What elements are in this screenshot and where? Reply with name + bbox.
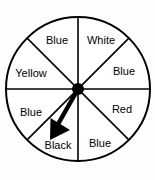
sector-label-blue-left-lower: Blue — [20, 106, 42, 118]
sector-label-blue-bottom-right: Blue — [89, 137, 111, 149]
sector-label-black: Black — [45, 139, 72, 151]
spinner-hub — [72, 83, 84, 95]
sector-label-yellow: Yellow — [15, 67, 46, 79]
sector-label-blue-right-upper: Blue — [113, 65, 135, 77]
sector-label-white: White — [87, 34, 115, 46]
sector-label-blue-top-left: Blue — [46, 34, 68, 46]
sector-label-red: Red — [112, 103, 132, 115]
spinner-wheel-graphic: White Blue Red Blue Black Blue Yellow Bl… — [0, 0, 155, 180]
spinner-figure: White Blue Red Blue Black Blue Yellow Bl… — [0, 0, 155, 180]
